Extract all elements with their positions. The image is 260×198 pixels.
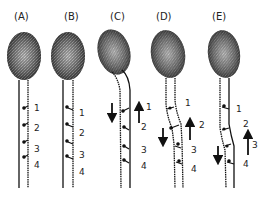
panel-label: (A) — [14, 11, 29, 22]
svg-text:2: 2 — [79, 128, 85, 138]
svg-text:4: 4 — [243, 159, 249, 169]
doublet-left — [166, 78, 175, 188]
panel-C: (C) 1 2 3 4 — [93, 11, 152, 188]
doublet-left — [112, 72, 121, 188]
panel-E: (E) 1 2 3 4 — [205, 11, 258, 188]
svg-text:4: 4 — [34, 160, 40, 170]
svg-text:4: 4 — [79, 167, 85, 177]
svg-text:1: 1 — [79, 108, 85, 118]
doublet-left — [220, 78, 226, 188]
doublet-right — [122, 70, 130, 188]
svg-text:3: 3 — [191, 145, 197, 155]
svg-text:3: 3 — [79, 150, 85, 160]
panel-label: (B) — [64, 11, 79, 22]
panel-label: (C) — [110, 11, 125, 22]
panel-label: (E) — [212, 11, 226, 22]
svg-text:2: 2 — [141, 122, 147, 132]
panel-A: (A) 1 2 3 4 — [7, 11, 41, 188]
svg-text:1: 1 — [34, 103, 40, 113]
panel-B: (B) 1 2 3 4 — [51, 11, 85, 188]
svg-text:2: 2 — [199, 120, 205, 130]
svg-text:4: 4 — [191, 164, 197, 174]
svg-text:3: 3 — [141, 145, 147, 155]
svg-text:2: 2 — [243, 119, 249, 129]
doublet-right — [229, 78, 234, 188]
panel-label: (D) — [156, 11, 172, 22]
panel-D: (D) 1 2 3 4 — [147, 11, 205, 188]
sperm-sliding-diagram: (A) 1 2 3 4 (B) 1 2 3 4 — [0, 0, 260, 198]
svg-text:4: 4 — [141, 161, 147, 171]
svg-text:3: 3 — [252, 140, 258, 150]
svg-text:1: 1 — [236, 104, 242, 114]
svg-text:3: 3 — [34, 144, 40, 154]
svg-text:1: 1 — [146, 102, 152, 112]
svg-text:1: 1 — [185, 98, 191, 108]
doublet-right — [175, 78, 183, 188]
diagram-stage: (A) 1 2 3 4 (B) 1 2 3 4 — [0, 0, 260, 198]
svg-text:2: 2 — [34, 123, 40, 133]
